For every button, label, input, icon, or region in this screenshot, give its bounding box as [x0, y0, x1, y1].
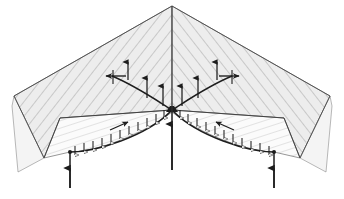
- diagram-root: [0, 0, 344, 199]
- vault-thrust-diagram: [0, 0, 344, 199]
